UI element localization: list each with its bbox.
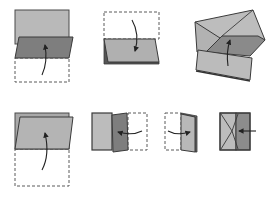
- left-panel: [92, 113, 112, 150]
- step-1-fold-up: [15, 10, 73, 82]
- dashed-outline: [15, 58, 69, 82]
- step-7-push-in: [220, 113, 256, 150]
- step-6-fold-right: [165, 113, 197, 152]
- dashed-outline: [128, 113, 147, 150]
- step-2-fold-down: [104, 12, 159, 64]
- left-half: [220, 113, 236, 150]
- folded-flap: [104, 39, 159, 62]
- step-4-fold-up: [15, 113, 73, 186]
- folded-flap: [15, 117, 73, 149]
- dashed-outline: [165, 113, 181, 150]
- step-5-fold-left: [92, 113, 147, 152]
- folding-diagram: [0, 0, 271, 199]
- step-3-squash-fold: [195, 10, 265, 81]
- folded-flap: [15, 37, 73, 58]
- dashed-outline: [15, 149, 69, 186]
- dashed-outline: [104, 12, 159, 39]
